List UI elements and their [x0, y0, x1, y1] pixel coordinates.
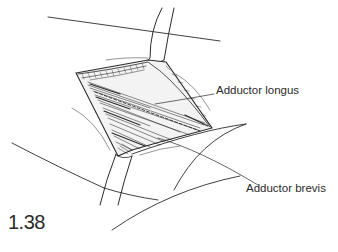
figure-number: 1.38: [8, 211, 45, 234]
leader-line-brevis: [158, 138, 258, 185]
anatomical-illustration: Adductor longus Adductor brevis 1.38: [0, 0, 338, 252]
label-adductor-brevis: Adductor brevis: [246, 182, 326, 194]
label-adductor-longus: Adductor longus: [216, 84, 299, 96]
skin-line-top: [48, 17, 220, 41]
incision-drawing: [0, 0, 338, 252]
